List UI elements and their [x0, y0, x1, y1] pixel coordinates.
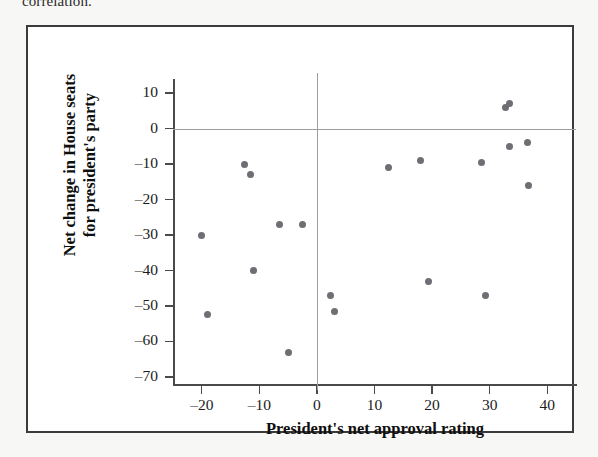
y-tick-label: –20	[98, 190, 158, 208]
plot-area	[173, 79, 576, 384]
y-tick-label: –70	[98, 367, 158, 385]
data-point	[524, 139, 531, 146]
x-tick-label: 0	[287, 396, 347, 414]
zero-line-horizontal	[173, 129, 576, 130]
y-tick-label: –40	[98, 261, 158, 279]
y-axis-title: Net change in House seats for president'…	[60, 50, 100, 280]
data-point	[285, 349, 292, 356]
figure-frame: Net change in House seats for president'…	[26, 25, 574, 433]
x-tick-mark	[259, 385, 260, 394]
data-point	[478, 159, 485, 166]
x-tick-label: 40	[517, 396, 577, 414]
x-tick-label: 20	[402, 396, 462, 414]
data-point	[241, 161, 248, 168]
data-point	[299, 221, 306, 228]
x-axis-line	[173, 384, 577, 386]
page-body-text: correlation.	[22, 0, 92, 10]
data-point	[327, 292, 334, 299]
x-tick-mark	[489, 385, 490, 394]
y-axis-title-line1: Net change in House seats	[60, 74, 79, 256]
x-tick-mark	[201, 385, 202, 394]
data-point	[331, 308, 338, 315]
x-tick-label: 10	[345, 396, 405, 414]
data-point	[425, 278, 432, 285]
x-tick-label: –20	[172, 396, 232, 414]
data-point	[247, 171, 254, 178]
y-tick-label: 10	[98, 83, 158, 101]
y-tick-label: –50	[98, 296, 158, 314]
data-point	[276, 221, 283, 228]
data-point	[506, 143, 513, 150]
data-point	[482, 292, 489, 299]
data-point	[385, 164, 392, 171]
data-point	[204, 311, 211, 318]
x-tick-mark	[374, 385, 375, 394]
y-tick-label: –30	[98, 225, 158, 243]
y-tick-label: –10	[98, 154, 158, 172]
data-point	[506, 100, 513, 107]
x-axis-title: President's net approval rating	[173, 419, 577, 439]
data-point	[417, 157, 424, 164]
data-point	[525, 182, 532, 189]
y-tick-label: 0	[98, 119, 158, 137]
x-tick-mark	[547, 385, 548, 394]
zero-line-vertical	[317, 73, 318, 390]
x-tick-mark	[431, 385, 432, 394]
y-tick-label: –60	[98, 331, 158, 349]
data-point	[250, 267, 257, 274]
x-tick-label: –10	[229, 396, 289, 414]
data-point	[198, 232, 205, 239]
x-tick-label: 30	[460, 396, 520, 414]
